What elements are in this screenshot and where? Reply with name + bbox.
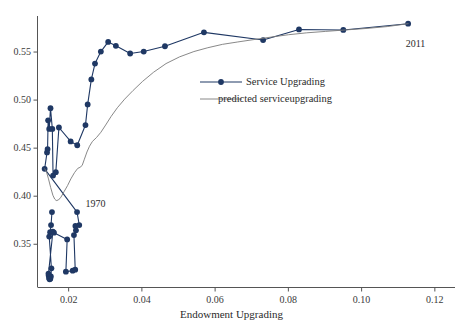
y-tick-label: 0.40 <box>0 190 31 201</box>
data-point-marker <box>98 49 104 55</box>
y-tick-label: 0.55 <box>0 46 31 57</box>
legend-item-predicted-serviceupgrading: predicted serviceupgrading <box>218 93 332 104</box>
data-point-marker <box>48 222 54 228</box>
data-point-marker <box>45 146 51 152</box>
data-point-marker <box>63 269 69 275</box>
data-point-marker <box>296 27 302 33</box>
x-axis-ticks <box>69 288 435 292</box>
data-point-marker <box>56 125 62 131</box>
y-tick-label: 0.35 <box>0 238 31 249</box>
data-point-marker <box>72 267 78 273</box>
data-point-marker <box>83 122 89 128</box>
data-point-marker <box>74 209 80 215</box>
x-tick-label: 0.08 <box>268 294 308 305</box>
series-line-0 <box>45 24 408 280</box>
y-tick-label: 0.45 <box>0 142 31 153</box>
y-tick-label: 0.50 <box>0 94 31 105</box>
data-point-marker <box>92 61 98 67</box>
series-layer <box>42 21 411 282</box>
data-point-marker <box>113 43 119 49</box>
data-point-marker <box>49 209 55 215</box>
legend-sample-marker-0 <box>218 79 224 85</box>
chart-figure: 0.350.400.450.500.55 0.020.040.060.080.1… <box>0 0 463 327</box>
data-point-marker <box>51 230 57 236</box>
legend-item-service-upgrading: Service Upgrading <box>246 76 325 87</box>
data-point-marker <box>48 105 54 111</box>
annotation-1970: 1970 <box>85 198 105 209</box>
data-point-marker <box>76 222 82 228</box>
data-point-marker <box>46 234 52 240</box>
data-point-marker <box>49 126 55 132</box>
data-point-marker <box>45 117 51 123</box>
data-point-marker <box>68 139 74 145</box>
data-point-marker <box>105 39 111 45</box>
data-point-marker <box>49 265 55 271</box>
y-axis-ticks <box>34 52 38 244</box>
data-point-marker <box>74 142 80 148</box>
data-point-marker <box>141 49 147 55</box>
x-tick-label: 0.02 <box>49 294 89 305</box>
x-tick-label: 0.12 <box>415 294 455 305</box>
data-point-marker <box>64 237 70 243</box>
x-tick-label: 0.10 <box>342 294 382 305</box>
data-point-marker <box>88 77 94 83</box>
x-tick-label: 0.04 <box>122 294 162 305</box>
data-point-marker <box>53 169 59 175</box>
data-point-marker <box>85 102 91 108</box>
data-point-marker <box>201 29 207 35</box>
data-point-marker <box>162 43 168 49</box>
data-point-marker <box>127 51 133 57</box>
annotation-2011: 2011 <box>406 38 426 49</box>
x-tick-label: 0.06 <box>195 294 235 305</box>
x-axis-title: Endowment Upgrading <box>0 308 463 320</box>
data-point-marker <box>46 271 52 277</box>
plot-canvas <box>0 0 463 327</box>
